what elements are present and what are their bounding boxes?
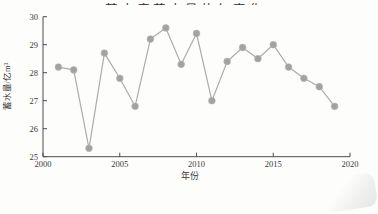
y-axis-label: 蓄水量/亿m³: [2, 62, 12, 110]
x-tick-label: 2020: [342, 159, 359, 169]
x-tick-label: 2015: [265, 159, 282, 169]
data-point: [147, 36, 154, 43]
y-tick-label: 26: [30, 124, 39, 134]
x-tick-label: 2010: [188, 159, 205, 169]
data-point: [101, 50, 108, 57]
data-point: [285, 64, 292, 71]
y-tick-label: 27: [30, 96, 39, 106]
data-point: [116, 75, 123, 82]
data-point: [316, 83, 323, 90]
data-point: [70, 67, 77, 74]
data-point: [270, 41, 277, 48]
page-corner-shadow: [314, 172, 378, 214]
data-line: [58, 28, 334, 148]
y-tick-label: 28: [30, 68, 39, 78]
data-point: [209, 97, 216, 104]
data-point: [255, 55, 262, 62]
data-point: [132, 103, 139, 110]
x-axis-label: 年份: [181, 170, 199, 181]
data-point: [86, 145, 93, 152]
data-point: [224, 58, 231, 65]
data-point: [239, 44, 246, 51]
data-point: [193, 30, 200, 37]
data-point: [331, 103, 338, 110]
x-tick-label: 2005: [111, 159, 128, 169]
data-point: [55, 64, 62, 71]
y-tick-label: 30: [30, 12, 39, 22]
data-point: [162, 25, 169, 32]
data-point: [301, 75, 308, 82]
y-tick-label: 29: [30, 40, 39, 50]
data-point: [178, 61, 185, 68]
x-tick-label: 2000: [35, 159, 52, 169]
